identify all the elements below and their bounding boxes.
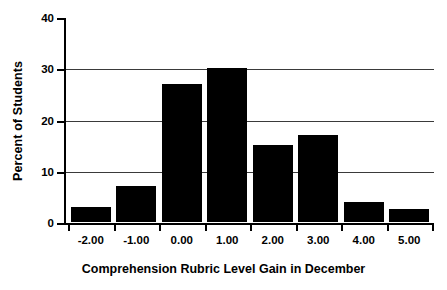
y-axis-title: Percent of Students	[8, 18, 28, 224]
gridline-10	[66, 172, 434, 173]
x-tick-label-0.00: 0.00	[171, 234, 193, 246]
x-tick-label--1.00: -1.00	[123, 234, 149, 246]
x-axis-title-label: Comprehension Rubric Level Gain in Decem…	[82, 262, 365, 276]
y-tick-0	[57, 223, 64, 225]
x-tick-label-5.00: 5.00	[398, 234, 420, 246]
x-tick-label-1.00: 1.00	[216, 234, 238, 246]
x-tick-label--2.00: -2.00	[78, 234, 104, 246]
bar-3.00	[298, 135, 338, 222]
x-tick--2.00	[68, 225, 70, 231]
bar--2.00	[71, 207, 111, 222]
bar-5.00	[389, 209, 429, 222]
bar-1.00	[207, 68, 247, 222]
y-tick-label-0: 0	[48, 217, 54, 229]
x-tick-label-3.00: 3.00	[307, 234, 329, 246]
y-tick-label-30: 30	[41, 63, 54, 75]
gridline-20	[66, 121, 434, 122]
bar--1.00	[116, 186, 156, 222]
y-tick-10	[57, 172, 64, 174]
x-tick-2.00	[250, 225, 252, 231]
bar-4.00	[344, 202, 384, 223]
y-axis-line	[64, 18, 66, 225]
x-tick-1.00	[205, 225, 207, 231]
y-tick-40	[57, 18, 64, 20]
bar-0.00	[162, 84, 202, 222]
y-tick-label-40: 40	[41, 12, 54, 24]
y-tick-label-10: 10	[41, 166, 54, 178]
x-axis-line	[64, 223, 434, 225]
x-tick-label-4.00: 4.00	[353, 234, 375, 246]
x-tick--1.00	[114, 225, 116, 231]
x-tick-0.00	[159, 225, 161, 231]
x-tick-3.00	[296, 225, 298, 231]
y-axis-title-label: Percent of Students	[11, 61, 25, 181]
x-tick-4.00	[341, 225, 343, 231]
y-tick-30	[57, 69, 64, 71]
x-tick-end	[432, 225, 434, 231]
bar-2.00	[253, 145, 293, 222]
plot-area: 010203040 -2.00-1.000.001.002.003.004.00…	[64, 18, 434, 224]
gridline-30	[66, 69, 434, 70]
x-tick-5.00	[387, 225, 389, 231]
x-tick-label-2.00: 2.00	[262, 234, 284, 246]
x-axis-title: Comprehension Rubric Level Gain in Decem…	[0, 262, 447, 276]
chart-figure: Percent of Students 010203040 -2.00-1.00…	[0, 0, 447, 290]
y-tick-20	[57, 121, 64, 123]
y-tick-label-20: 20	[41, 115, 54, 127]
